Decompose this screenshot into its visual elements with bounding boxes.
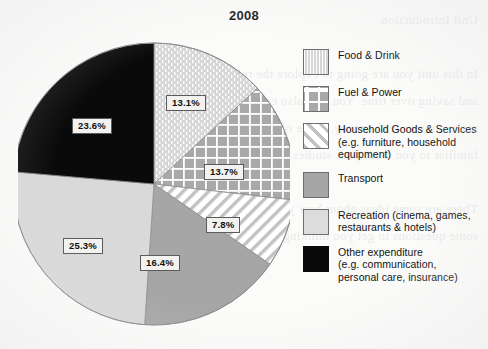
- legend-swatch-food-drink-icon: [303, 49, 329, 75]
- pie-slice-group: [18, 43, 290, 325]
- slice-label-other-expenditure: 23.6%: [72, 118, 112, 134]
- legend-swatch-transport-icon: [303, 172, 329, 198]
- legend-item-fuel-power[interactable]: Fuel & Power: [303, 85, 488, 112]
- slice-label-food-drink: 13.1%: [166, 95, 206, 111]
- chart-legend: Food & Drink Fuel & Power Household Good…: [303, 48, 488, 294]
- slice-label-fuel-power: 13.7%: [204, 164, 244, 180]
- legend-item-household-goods[interactable]: Household Goods & Services (e.g. furnitu…: [303, 122, 488, 161]
- legend-label-household-goods: Household Goods & Services (e.g. furnitu…: [338, 122, 476, 161]
- legend-swatch-fuel-power-icon: [303, 86, 329, 112]
- chart-page: Unit Introduction In this unit you are g…: [0, 0, 488, 349]
- legend-swatch-recreation-icon: [303, 209, 329, 235]
- legend-label-other-expenditure: Other expenditure (e.g. communication, p…: [338, 245, 458, 284]
- legend-label-recreation: Recreation (cinema, games, restaurants &…: [338, 208, 471, 234]
- legend-label-food-drink: Food & Drink: [338, 48, 400, 62]
- legend-label-fuel-power: Fuel & Power: [338, 85, 402, 99]
- slice-label-transport: 16.4%: [140, 255, 180, 271]
- pie-chart: 13.1% 13.7% 7.8% 16.4% 25.3% 23.6%: [18, 36, 290, 332]
- pie-slice-other-expenditure[interactable]: [18, 43, 154, 184]
- legend-label-transport: Transport: [338, 171, 383, 185]
- chart-title: 2008: [0, 8, 488, 23]
- legend-item-recreation[interactable]: Recreation (cinema, games, restaurants &…: [303, 208, 488, 235]
- slice-label-recreation: 25.3%: [63, 238, 103, 254]
- slice-label-household-goods: 7.8%: [206, 217, 240, 233]
- pie-chart-svg: [18, 36, 290, 332]
- legend-swatch-other-expenditure-icon: [303, 246, 329, 272]
- legend-item-other-expenditure[interactable]: Other expenditure (e.g. communication, p…: [303, 245, 488, 284]
- legend-item-transport[interactable]: Transport: [303, 171, 488, 198]
- legend-item-food-drink[interactable]: Food & Drink: [303, 48, 488, 75]
- legend-swatch-household-goods-icon: [303, 123, 329, 149]
